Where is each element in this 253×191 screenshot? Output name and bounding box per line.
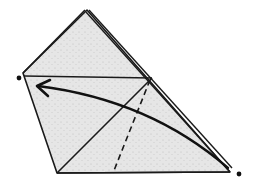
source-dot (237, 172, 242, 177)
origami-diagram (0, 0, 253, 191)
bottom-edge-line (57, 172, 230, 173)
target-dot (17, 76, 22, 81)
diagram-canvas (0, 0, 253, 191)
paper-shape (23, 10, 230, 173)
